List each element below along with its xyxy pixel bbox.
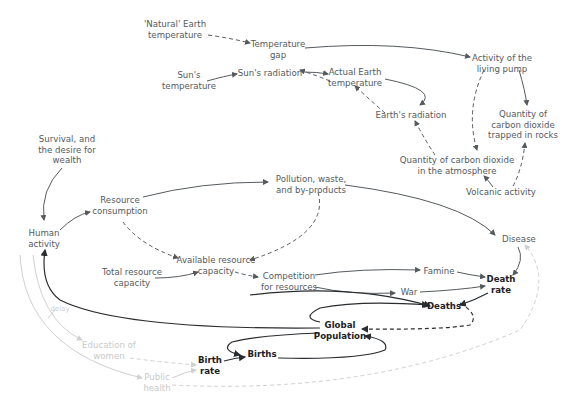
edge-volcanic-to-co2atm — [484, 176, 493, 187]
node-resource-consumption: Resource consumption — [92, 195, 148, 216]
edge-competition-to-famine — [315, 270, 420, 275]
node-death-rate: Death rate — [487, 274, 516, 295]
edge-natural-to-gap — [208, 35, 250, 43]
node-survival-desire-wealth: Survival, and the desire for wealth — [38, 134, 96, 166]
node-disease: Disease — [502, 234, 536, 245]
node-competition-for-resources: Competition for resources — [261, 271, 317, 292]
node-pollution-waste: Pollution, waste, and by-products — [276, 174, 346, 195]
edge-consumption-to-available — [123, 222, 178, 258]
node-birth-rate: Birth rate — [198, 355, 222, 376]
edge-publichealth-to-birthrate — [172, 370, 196, 378]
edge-famine-to-deathrate — [457, 272, 485, 277]
node-famine: Famine — [424, 266, 455, 277]
edge-pump-to-co2atm — [472, 70, 484, 150]
node-total-resource-capacity: Total resource capacity — [102, 267, 162, 288]
node-public-health: Public health — [143, 372, 170, 393]
edge-co2atm-to-earthrad — [415, 121, 435, 155]
edge-birthrate-to-births — [224, 357, 245, 361]
edge-gap-to-pump — [305, 45, 470, 57]
edge-volcanic-to-co2rocks — [513, 143, 525, 186]
delay-label: delay — [50, 304, 69, 315]
edge-radiation-to-actual — [303, 72, 328, 74]
node-co2-atmosphere: Quantity of carbon dioxide in the atmosp… — [400, 155, 514, 176]
edge-disease-to-deathrate — [513, 247, 521, 275]
node-activity-living-pump: Activity of the living pump — [472, 53, 532, 74]
edge-human-to-consumption — [60, 212, 90, 230]
node-natural-earth-temperature: 'Natural' Earth temperature — [144, 19, 206, 40]
node-global-population: Global Population — [314, 320, 366, 341]
node-suns-temperature: Sun's temperature — [162, 70, 216, 91]
node-education-of-women: Education of women — [82, 340, 136, 361]
node-volcanic-activity: Volcanic activity — [466, 187, 536, 198]
edge-actual-to-earthrad — [385, 79, 425, 105]
edge-pump-to-co2rocks — [519, 70, 527, 105]
edge-survival-to-human — [43, 168, 62, 220]
edge-war-to-deathrate — [420, 286, 485, 292]
node-temperature-gap: Temperature gap — [251, 39, 305, 60]
edge-pollution-to-available — [250, 192, 320, 260]
edge-consumption-to-pollution — [143, 182, 268, 197]
edge-deathrate-to-deaths — [460, 293, 488, 305]
node-actual-earth-temperature: Actual Earth temperature — [328, 67, 382, 88]
node-available-resource-capacity: Available resource capacity — [177, 255, 256, 276]
node-war: War — [401, 287, 418, 298]
node-human-activity: Human activity — [28, 228, 60, 249]
edge-education-to-birthrate — [130, 358, 196, 365]
node-deaths: Deaths — [427, 301, 461, 312]
node-earths-radiation: Earth's radiation — [376, 110, 447, 121]
node-co2-rocks: Quantity of carbon dioxide trapped in ro… — [488, 109, 558, 141]
node-births: Births — [247, 349, 276, 360]
node-suns-radiation: Sun's radiation — [238, 68, 302, 79]
